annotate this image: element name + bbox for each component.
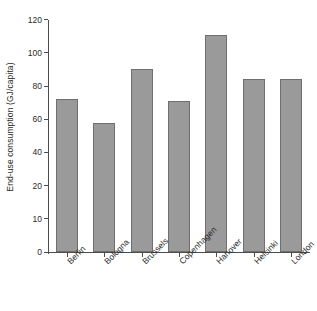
y-axis-tick-label: 100 <box>28 47 42 59</box>
y-axis-tick-mark <box>44 185 48 186</box>
bar <box>93 123 115 252</box>
y-axis-tick-label: 10 <box>33 213 42 225</box>
y-axis-tick-label: 60 <box>33 113 42 125</box>
y-axis-tick-mark <box>44 86 48 87</box>
y-axis-tick-mark <box>44 19 48 20</box>
y-axis-tick-label: 80 <box>33 80 42 92</box>
bar-chart-figure: End-use consumption (GJ/capita) 01020406… <box>0 0 317 311</box>
bar <box>131 69 153 252</box>
bar <box>280 79 302 252</box>
y-axis-tick-label: 40 <box>33 146 42 158</box>
y-axis-tick-mark <box>44 252 48 253</box>
y-axis-tick-mark <box>44 152 48 153</box>
y-axis-title: End-use consumption (GJ/capita) <box>0 0 20 253</box>
y-axis-tick-label: 0 <box>37 246 42 258</box>
y-axis-tick-mark <box>44 119 48 120</box>
y-axis-line <box>48 20 49 254</box>
y-axis-tick-mark <box>44 218 48 219</box>
bar <box>243 79 265 252</box>
y-axis-tick-label: 120 <box>28 14 42 26</box>
bar <box>168 101 190 252</box>
y-axis-title-text: End-use consumption (GJ/capita) <box>5 62 15 191</box>
plot-area: 01020406080100120 <box>48 20 310 253</box>
bar <box>205 35 227 252</box>
y-axis-tick-mark <box>44 52 48 53</box>
y-axis-tick-label: 20 <box>33 180 42 192</box>
bar <box>56 99 78 252</box>
